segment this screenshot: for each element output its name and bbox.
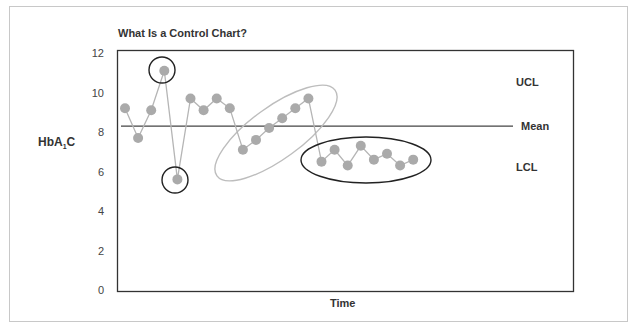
data-point: [251, 135, 261, 145]
data-series: [120, 66, 418, 185]
y-tick-label: 8: [98, 126, 104, 138]
mean-label: Mean: [521, 120, 549, 132]
y-tick-label: 12: [92, 47, 104, 59]
trend-ellipse: [202, 69, 351, 197]
lcl-label: LCL: [516, 161, 538, 173]
data-point: [264, 123, 274, 133]
chart-title: What Is a Control Chart?: [118, 27, 247, 39]
data-point: [120, 103, 130, 113]
data-point: [212, 93, 222, 103]
data-point: [146, 105, 156, 115]
data-point: [369, 155, 379, 165]
data-point: [408, 155, 418, 165]
plot-area: [118, 51, 574, 292]
data-point: [395, 161, 405, 171]
data-point: [133, 133, 143, 143]
control-chart: What Is a Control Chart? 024681012 HbA1C…: [0, 0, 637, 330]
x-axis-label: Time: [330, 297, 355, 309]
y-tick-label: 2: [98, 245, 104, 257]
y-axis-ticks: 024681012: [92, 47, 104, 296]
data-point: [159, 66, 169, 76]
y-tick-label: 10: [92, 87, 104, 99]
data-point: [290, 103, 300, 113]
ucl-label: UCL: [516, 76, 539, 88]
data-point: [317, 157, 327, 167]
data-point: [277, 113, 287, 123]
data-point: [382, 149, 392, 159]
y-tick-label: 4: [98, 205, 104, 217]
y-tick-label: 0: [98, 284, 104, 296]
y-tick-label: 6: [98, 166, 104, 178]
data-point: [225, 103, 235, 113]
data-point: [199, 105, 209, 115]
data-point: [186, 93, 196, 103]
y-axis-label: HbA1C: [38, 135, 76, 150]
data-point: [356, 141, 366, 151]
data-point: [238, 145, 248, 155]
data-point: [172, 174, 182, 184]
data-point: [330, 145, 340, 155]
data-point: [343, 161, 353, 171]
data-point: [303, 93, 313, 103]
